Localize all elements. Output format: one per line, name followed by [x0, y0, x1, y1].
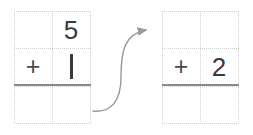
cell-r0c1-top-addend[interactable]: 5 — [52, 11, 90, 48]
cell-r2c0-answer-left[interactable] — [14, 86, 52, 123]
cell-r0c0[interactable] — [14, 11, 52, 48]
worksheet-canvas: 5 + + 2 — [0, 0, 253, 135]
plus-operator-icon: + — [174, 54, 189, 79]
grid-line-vertical-right — [238, 11, 239, 124]
cell-r2c0-answer-left[interactable] — [162, 86, 200, 123]
cell-r1c1-bottom-addend[interactable]: 2 — [200, 48, 238, 85]
original-problem-grid: 5 + — [14, 11, 91, 124]
plus-operator-icon: + — [26, 54, 41, 79]
arrow-path — [93, 30, 146, 111]
cell-r1c0-operator[interactable]: + — [14, 48, 52, 85]
top-addend-digit: 5 — [64, 17, 78, 43]
cell-r0c0[interactable] — [162, 11, 200, 48]
cell-r2c1-answer-right[interactable] — [200, 86, 238, 123]
cell-r1c1-bottom-addend[interactable] — [52, 48, 90, 85]
bottom-addend-digit: 2 — [212, 54, 226, 80]
result-problem-grid: + 2 — [162, 11, 239, 124]
bottom-addend-digit — [70, 54, 73, 79]
cell-r2c1-answer-right[interactable] — [52, 86, 90, 123]
cell-r0c1-top-addend[interactable] — [200, 11, 238, 48]
cell-r1c0-operator[interactable]: + — [162, 48, 200, 85]
grid-line-vertical-right — [90, 11, 91, 124]
